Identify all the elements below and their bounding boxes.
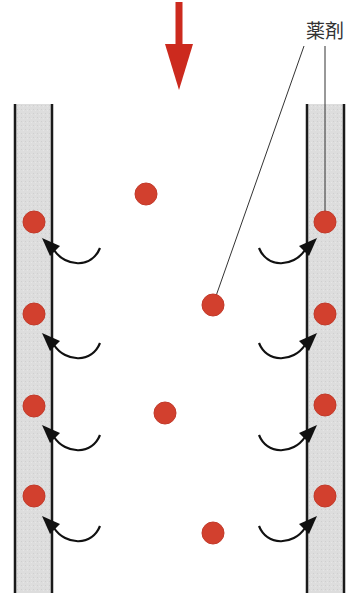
drug-particle-free (135, 183, 157, 205)
drug-particle-absorbed-right (314, 211, 336, 233)
arrow-head (165, 44, 193, 90)
drug-particle-absorbed-left (23, 211, 45, 233)
leader-line (216, 46, 304, 296)
drug-label: 薬剤 (306, 16, 344, 43)
drug-particle-absorbed-right (314, 394, 336, 416)
arrow-curve (259, 435, 305, 450)
drug-particle-free (154, 402, 176, 424)
drug-particles (23, 183, 336, 544)
arrow-curve (259, 526, 305, 541)
drug-particle-free (202, 294, 224, 316)
absorption-arrows (42, 238, 317, 541)
drug-particle-absorbed-right (314, 485, 336, 507)
drug-particle-absorbed-left (23, 303, 45, 325)
arrow-curve (54, 435, 100, 450)
drug-particle-absorbed-right (314, 303, 336, 325)
arrow-curve (259, 343, 305, 358)
arrow-curve (54, 343, 100, 358)
drug-particle-free (202, 522, 224, 544)
arrow-shaft (176, 2, 183, 48)
arrow-curve (54, 248, 100, 263)
arrow-curve (259, 248, 305, 263)
arrow-curve (54, 526, 100, 541)
drug-particle-absorbed-left (23, 485, 45, 507)
drug-absorption-diagram (0, 0, 361, 612)
flow-direction-arrow-icon (165, 2, 193, 90)
vessel-walls (15, 104, 344, 593)
drug-particle-absorbed-left (23, 395, 45, 417)
